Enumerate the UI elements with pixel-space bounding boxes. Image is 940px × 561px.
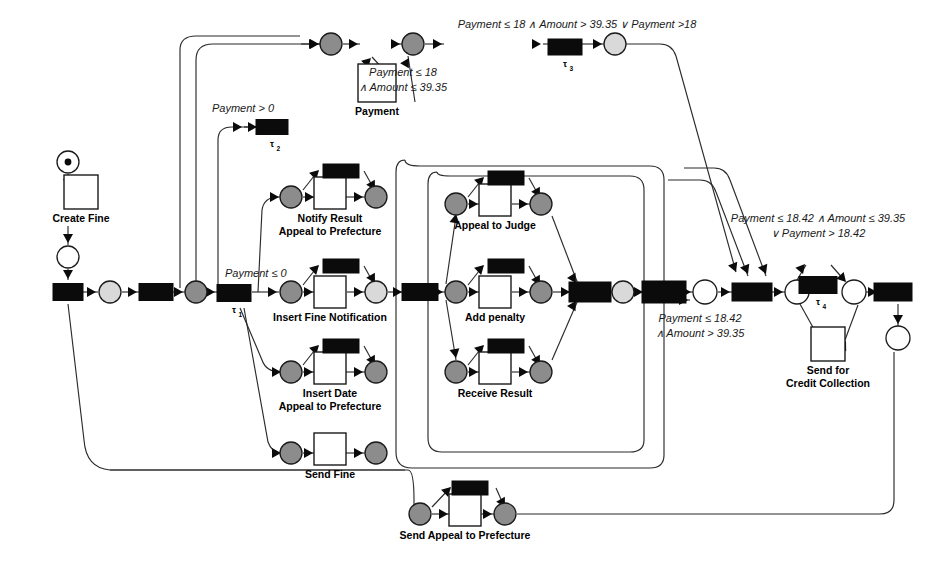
- transition-t-a[interactable]: [139, 284, 173, 301]
- place-place-after-join[interactable]: [693, 280, 717, 304]
- transition-t-after[interactable]: [732, 283, 772, 301]
- task-label: Send Appeal to Prefecture: [400, 529, 531, 541]
- arrowhead: [393, 287, 402, 297]
- arrowhead: [309, 39, 318, 49]
- place-place-rr-in[interactable]: [445, 361, 467, 383]
- place-place-after-create-fine[interactable]: [57, 246, 79, 268]
- transition-t-tau3[interactable]: [548, 39, 582, 55]
- arrowhead: [532, 39, 541, 49]
- transition-t-ifn[interactable]: [323, 259, 359, 273]
- task-create-fine[interactable]: [64, 175, 98, 209]
- arrowhead: [174, 287, 183, 297]
- task-send-for-credit-collection[interactable]: [811, 327, 845, 361]
- transition-t-join2[interactable]: [642, 281, 686, 303]
- transition-t-ida[interactable]: [323, 339, 359, 353]
- arrowhead: [593, 39, 602, 49]
- transition-t-start[interactable]: [53, 284, 83, 301]
- place-place-ifn-in[interactable]: [280, 281, 302, 303]
- transition-t-tau2[interactable]: [256, 120, 288, 135]
- place-place-ap-in[interactable]: [445, 281, 467, 303]
- arrowhead: [270, 192, 279, 202]
- arc-68: [196, 44, 320, 292]
- place-place-end[interactable]: [886, 326, 910, 350]
- arrowhead: [87, 287, 96, 297]
- arrowhead: [304, 287, 313, 297]
- place-place-nr-out[interactable]: [365, 186, 387, 208]
- guard-condition: ∧ Amount ≤ 39.35: [359, 81, 448, 93]
- place-place-nr-in[interactable]: [280, 186, 302, 208]
- arrowhead: [268, 287, 277, 297]
- task-notify-result-appeal-to-prefecture[interactable]: [314, 177, 346, 209]
- place-place-sf-in[interactable]: [280, 442, 302, 464]
- arrowhead: [893, 315, 903, 324]
- arrowhead: [354, 448, 363, 458]
- silent-transition-label: τ2: [270, 139, 281, 152]
- arrowhead: [354, 287, 363, 297]
- task-label: Receive Result: [458, 387, 533, 399]
- tau-subscript: 1: [239, 311, 243, 318]
- arc-72: [626, 44, 736, 272]
- place-place-ida-out[interactable]: [365, 361, 387, 383]
- transition-t-ap[interactable]: [488, 259, 524, 273]
- task-label: Create Fine: [52, 212, 109, 224]
- place-place-rr-out[interactable]: [530, 361, 552, 383]
- place-place-ida-in[interactable]: [280, 361, 302, 383]
- place-place-ap-out[interactable]: [530, 281, 552, 303]
- place-place-tau3-out[interactable]: [604, 33, 626, 55]
- transition-t-end[interactable]: [874, 283, 912, 301]
- task-insert-fine-notification[interactable]: [314, 276, 346, 308]
- task-insert-date-appeal-to-prefecture[interactable]: [314, 352, 346, 384]
- silent-transition-label: τ4: [816, 297, 827, 310]
- silent-transition-label: τ3: [563, 59, 574, 72]
- guard-condition: ∨ Payment > 18.42: [771, 227, 866, 239]
- task-label: Send Fine: [305, 468, 355, 480]
- tau-symbol: τ: [816, 297, 820, 307]
- place-place-sap-out[interactable]: [494, 503, 516, 525]
- place-place-aj-out[interactable]: [530, 193, 552, 215]
- place-place-p1[interactable]: [99, 281, 121, 303]
- transition-t-tau1[interactable]: [217, 285, 251, 302]
- guard-condition: Payment ≤ 18.42: [658, 312, 741, 324]
- task-label: Credit Collection: [786, 377, 870, 389]
- task-send-appeal-to-prefecture[interactable]: [449, 494, 481, 526]
- transition-t-rr[interactable]: [488, 339, 524, 353]
- place-place-sf-out[interactable]: [365, 442, 387, 464]
- task-label: Payment: [355, 105, 399, 117]
- arrowhead: [483, 509, 492, 519]
- arrowhead: [439, 509, 448, 519]
- place-place-ifn-out[interactable]: [365, 281, 387, 303]
- place-place-payment-in[interactable]: [320, 33, 342, 55]
- tau-symbol: τ: [270, 139, 274, 149]
- arrowhead: [474, 261, 487, 274]
- place-place-payment-out[interactable]: [402, 33, 424, 55]
- guard-condition: Payment ≤ 18: [369, 66, 438, 78]
- transition-t-nr[interactable]: [323, 164, 359, 178]
- arrowhead: [740, 264, 753, 276]
- arrowhead: [304, 367, 313, 377]
- place-place-mid-join[interactable]: [612, 281, 634, 303]
- task-add-penalty[interactable]: [479, 276, 511, 308]
- arrowhead: [469, 199, 478, 209]
- tau-subscript: 4: [823, 303, 827, 310]
- task-appeal-to-judge[interactable]: [479, 184, 511, 216]
- guard-condition: Payment > 0: [212, 102, 275, 114]
- task-send-fine[interactable]: [314, 433, 346, 465]
- tau-subscript: 2: [277, 145, 281, 152]
- transition-t-mid-join[interactable]: [569, 282, 611, 302]
- arrowhead: [354, 367, 363, 377]
- place-place-p2[interactable]: [185, 281, 207, 303]
- task-label: Insert Date: [303, 387, 357, 399]
- place-place-tau4-out[interactable]: [842, 280, 866, 304]
- petri-net-svg: Create FinePaymentNotify ResultAppeal to…: [0, 0, 940, 561]
- arrowhead: [63, 234, 73, 243]
- guard-condition: Payment ≤ 18 ∧ Amount > 39.35 ∨ Payment …: [458, 18, 698, 30]
- transition-t-aj[interactable]: [488, 171, 524, 185]
- guard-condition: Payment ≤ 0: [225, 267, 288, 279]
- place-place-aj-in[interactable]: [445, 193, 467, 215]
- transition-t-sap[interactable]: [452, 481, 488, 495]
- tau-symbol: τ: [232, 305, 236, 315]
- place-place-sap-in[interactable]: [409, 503, 431, 525]
- transition-t-mid-split[interactable]: [402, 284, 438, 301]
- transition-t-tau4[interactable]: [799, 277, 837, 294]
- task-receive-result[interactable]: [479, 352, 511, 384]
